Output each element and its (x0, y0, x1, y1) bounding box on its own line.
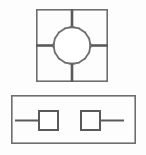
node-left-icon (39, 111, 58, 130)
schematic-diagram-canvas (0, 0, 146, 155)
figure-root (0, 0, 146, 155)
node-right-icon (81, 111, 100, 130)
